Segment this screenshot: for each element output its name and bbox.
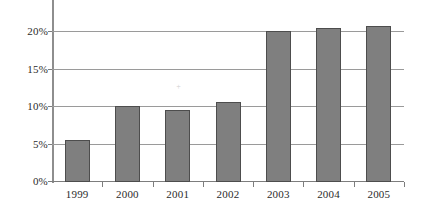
x-tick-mark (404, 182, 405, 187)
y-tick-label-15%: 15% (2, 64, 48, 75)
bar-2000 (115, 106, 140, 183)
bar-chart: 0%5%10%15%20% 19992000200120022003200420… (0, 0, 437, 218)
x-tick-label-2002: 2002 (205, 189, 251, 200)
bar-2002 (216, 102, 241, 182)
scan-artifact-speck: + (176, 84, 181, 89)
y-tick-label-0%: 0% (2, 176, 48, 187)
bar-2001 (165, 110, 190, 182)
bar-2004 (316, 28, 341, 183)
x-axis-tick-labels: 1999200020012002200320042005 (52, 182, 404, 218)
gridline-20% (52, 31, 404, 32)
plot-area (52, 0, 404, 182)
gridline-15% (52, 69, 404, 70)
y-tick-label-20%: 20% (2, 26, 48, 37)
x-tick-label-2004: 2004 (306, 189, 352, 200)
x-tick-mark (354, 182, 355, 187)
y-tick-label-10%: 10% (2, 101, 48, 112)
bar-2005 (366, 26, 391, 182)
x-tick-mark (102, 182, 103, 187)
bar-2003 (266, 31, 291, 183)
x-tick-mark (153, 182, 154, 187)
x-tick-label-2001: 2001 (155, 189, 201, 200)
x-tick-mark (303, 182, 304, 187)
x-tick-label-2003: 2003 (255, 189, 301, 200)
bar-1999 (65, 140, 90, 182)
y-tick-label-5%: 5% (2, 139, 48, 150)
y-axis-tick-labels: 0%5%10%15%20% (0, 0, 48, 182)
x-tick-label-2005: 2005 (356, 189, 402, 200)
x-tick-label-1999: 1999 (54, 189, 100, 200)
x-tick-mark (203, 182, 204, 187)
x-tick-label-2000: 2000 (104, 189, 150, 200)
x-tick-mark (253, 182, 254, 187)
